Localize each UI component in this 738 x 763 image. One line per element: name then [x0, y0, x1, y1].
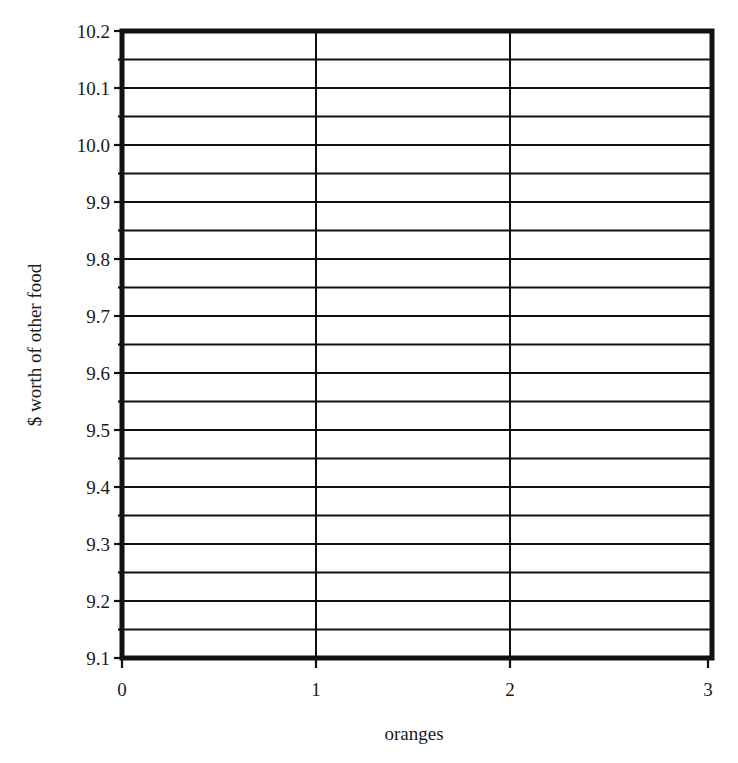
y-tick-label: 9.9	[86, 192, 110, 213]
y-tick-label: 10.0	[77, 135, 110, 156]
y-axis-tick-labels: 9.19.29.39.49.59.69.79.89.910.010.110.2	[77, 21, 111, 669]
y-tick-label: 10.2	[77, 21, 110, 42]
chart: 9.19.29.39.49.59.69.79.89.910.010.110.2 …	[0, 0, 738, 763]
y-tick-label: 9.2	[86, 591, 110, 612]
y-tick-label: 9.1	[86, 648, 110, 669]
x-axis-title: oranges	[384, 723, 443, 744]
y-tick-label: 9.5	[86, 420, 110, 441]
y-tick-label: 9.7	[86, 306, 110, 327]
x-tick-label: 1	[311, 679, 321, 700]
y-tick-label: 9.3	[86, 534, 110, 555]
x-tick-label: 0	[117, 679, 127, 700]
horizontal-gridlines	[122, 60, 712, 630]
y-tick-label: 10.1	[77, 78, 110, 99]
y-tick-label: 9.6	[86, 363, 110, 384]
y-tick-label: 9.4	[86, 477, 110, 498]
x-axis-tick-labels: 0123	[117, 679, 713, 700]
x-tick-label: 2	[505, 679, 515, 700]
x-tick-label: 3	[703, 679, 713, 700]
y-axis-title: $ worth of other food	[24, 263, 45, 426]
y-tick-label: 9.8	[86, 249, 110, 270]
